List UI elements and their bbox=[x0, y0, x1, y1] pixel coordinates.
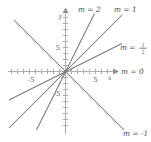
x-tick-label-positive-5: 5 bbox=[93, 76, 97, 84]
x-axis-label: x bbox=[108, 74, 112, 81]
slope-label-m-negative-1: m = -1 bbox=[123, 129, 148, 138]
x-tick-label-negative-5: -5 bbox=[28, 76, 35, 84]
y-axis-label: y bbox=[58, 12, 63, 20]
slope-label-m-one-half-numerator: 1 bbox=[141, 42, 144, 48]
slope-label-m-1: m = 1 bbox=[114, 5, 137, 14]
y-tick-label-positive-5: 5 bbox=[56, 44, 60, 52]
axes-group bbox=[8, 8, 119, 135]
y-axis-arrow-icon bbox=[63, 8, 69, 14]
slope-label-m-one-half-denominator: 2 bbox=[141, 49, 144, 55]
slope-lines-figure: x y -5 5 5 -5 m = 2 m = 1 m = 1 2 m = 0 … bbox=[0, 0, 151, 142]
x-axis-arrow-icon bbox=[113, 69, 119, 75]
slope-label-m-one-half: m = 1 2 bbox=[120, 42, 147, 55]
y-tick-label-negative-5: -5 bbox=[54, 90, 61, 98]
slope-label-m-one-half-prefix: m = bbox=[120, 43, 136, 52]
slope-label-m-0: m = 0 bbox=[121, 67, 144, 76]
coordinate-plot: x y -5 5 5 -5 m = 2 m = 1 m = 1 2 m = 0 … bbox=[0, 0, 151, 142]
slope-label-m-2: m = 2 bbox=[78, 5, 101, 14]
